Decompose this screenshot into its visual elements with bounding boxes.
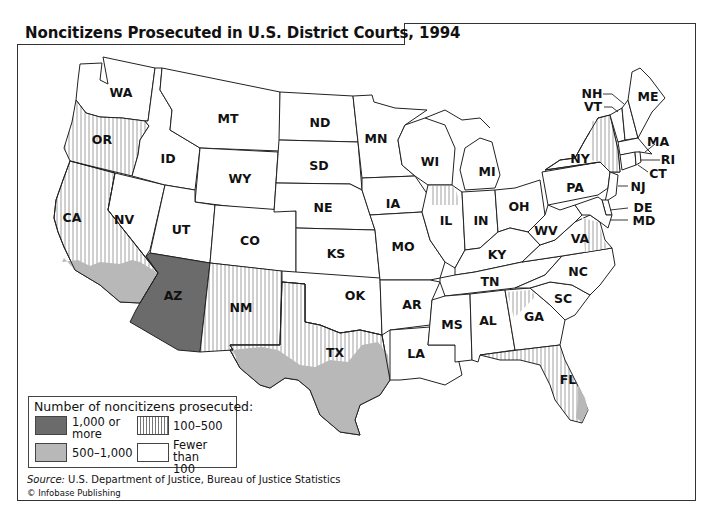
- legend: Number of noncitizens prosecuted: 1,000 …: [28, 396, 237, 468]
- label-ID: ID: [160, 151, 175, 166]
- legend-swatch-100-500: [137, 416, 169, 435]
- label-UT: UT: [172, 222, 191, 237]
- label-MO: MO: [391, 239, 414, 254]
- source-label: Source:: [27, 474, 65, 485]
- legend-swatch-500-1000: [35, 443, 67, 462]
- label-LA: LA: [407, 346, 425, 361]
- label-MD: MD: [633, 213, 656, 228]
- label-MS: MS: [441, 317, 462, 332]
- legend-swatch-fewer-than-100: [137, 443, 169, 462]
- label-WA: WA: [110, 85, 133, 100]
- label-VT: VT: [584, 99, 603, 114]
- label-RI: RI: [661, 152, 675, 167]
- label-ME: ME: [638, 89, 659, 104]
- label-FL: FL: [560, 372, 577, 387]
- state-RI: [635, 152, 641, 165]
- map-title: Noncitizens Prosecuted in U.S. District …: [25, 24, 460, 42]
- label-WV: WV: [534, 223, 558, 238]
- label-MA: MA: [647, 134, 669, 149]
- label-NV: NV: [114, 212, 134, 227]
- label-AR: AR: [402, 297, 422, 312]
- label-NJ: NJ: [630, 179, 645, 194]
- legend-title: Number of noncitizens prosecuted:: [34, 399, 253, 414]
- label-CO: CO: [240, 233, 260, 248]
- label-PA: PA: [566, 180, 584, 195]
- label-WI: WI: [421, 154, 439, 169]
- label-OK: OK: [345, 288, 367, 303]
- label-SD: SD: [309, 158, 328, 173]
- label-TN: TN: [481, 274, 500, 289]
- label-NM: NM: [230, 300, 253, 315]
- legend-label-100-500: 100–500: [173, 420, 223, 432]
- label-KS: KS: [327, 246, 346, 261]
- label-IA: IA: [386, 196, 401, 211]
- label-VA: VA: [571, 231, 590, 246]
- label-IL: IL: [440, 213, 453, 228]
- title-box: Noncitizens Prosecuted in U.S. District …: [17, 23, 405, 45]
- label-NE: NE: [313, 200, 332, 215]
- label-NY: NY: [570, 151, 590, 166]
- label-WY: WY: [229, 171, 253, 186]
- label-AL: AL: [479, 313, 497, 328]
- label-KY: KY: [488, 247, 508, 262]
- label-AZ: AZ: [164, 288, 183, 303]
- label-MT: MT: [218, 111, 239, 126]
- state-CT: [620, 152, 636, 170]
- legend-swatch-1000-plus: [35, 416, 67, 435]
- label-IN: IN: [473, 213, 488, 228]
- label-MN: MN: [365, 131, 388, 146]
- label-NC: NC: [568, 264, 588, 279]
- source-text: U.S. Department of Justice, Bureau of Ju…: [65, 474, 341, 485]
- label-SC: SC: [554, 291, 572, 306]
- label-OR: OR: [92, 132, 113, 147]
- legend-label-fewer-than-100: Fewer than 100: [173, 439, 236, 475]
- copyright: © Infobase Publishing: [27, 488, 121, 498]
- source-note: Source: U.S. Department of Justice, Bure…: [27, 474, 340, 485]
- label-TX: TX: [326, 345, 345, 360]
- legend-label-1000-plus: 1,000 or more: [72, 416, 120, 440]
- legend-label-500-1000: 500–1,000: [72, 447, 133, 459]
- label-MI: MI: [478, 164, 495, 179]
- label-OH: OH: [508, 199, 529, 214]
- label-CT: CT: [649, 166, 667, 181]
- label-ND: ND: [310, 115, 331, 130]
- label-GA: GA: [524, 309, 544, 324]
- label-CA: CA: [63, 210, 82, 225]
